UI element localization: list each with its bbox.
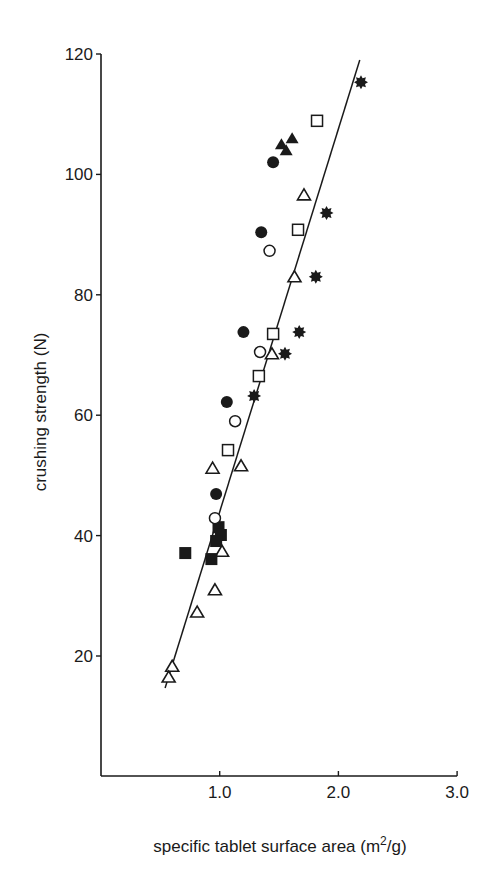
open-triangle-marker xyxy=(288,271,301,282)
open-circle-marker xyxy=(255,346,266,357)
filled-circle-marker xyxy=(255,226,267,238)
open-square-marker xyxy=(312,115,323,126)
asterisk-marker xyxy=(309,270,323,284)
filled-circle-marker xyxy=(267,156,279,168)
open-triangle-marker xyxy=(235,460,248,471)
open-triangle-marker xyxy=(265,348,278,359)
x-tick-label: 3.0 xyxy=(445,783,469,802)
asterisk-marker xyxy=(278,347,292,361)
open-square-marker xyxy=(268,328,279,339)
open-square-marker xyxy=(253,371,264,382)
y-tick-label: 80 xyxy=(74,286,93,305)
filled-circle-marker xyxy=(237,326,249,338)
y-tick-label: 120 xyxy=(65,45,93,64)
open-square-marker xyxy=(223,445,234,456)
x-tick-label: 2.0 xyxy=(327,783,351,802)
asterisk-marker xyxy=(354,75,368,89)
open-triangle-marker xyxy=(297,189,310,200)
asterisk-marker xyxy=(320,206,334,220)
filled-square-marker xyxy=(205,553,217,565)
open-square-marker xyxy=(293,224,304,235)
open-circle-marker xyxy=(230,416,241,427)
asterisk-marker xyxy=(292,325,306,339)
filled-triangle-marker xyxy=(286,132,299,143)
open-circle-marker xyxy=(209,513,220,524)
asterisk-marker xyxy=(247,389,261,403)
x-tick-label: 1.0 xyxy=(208,783,232,802)
open-triangle-marker xyxy=(206,462,219,473)
axes: 204060801001201.02.03.0 xyxy=(65,45,469,802)
y-tick-label: 100 xyxy=(65,165,93,184)
y-axis-title: crushing strength (N) xyxy=(31,333,50,492)
filled-square-marker xyxy=(210,535,222,547)
y-tick-label: 20 xyxy=(74,647,93,666)
y-tick-label: 60 xyxy=(74,406,93,425)
open-triangle-marker xyxy=(208,584,221,595)
filled-circle-marker xyxy=(221,396,233,408)
open-circle-marker xyxy=(264,245,275,256)
x-axis-title: specific tablet surface area (m2/g) xyxy=(153,834,406,856)
data-points xyxy=(162,75,368,682)
y-tick-label: 40 xyxy=(74,527,93,546)
open-triangle-marker xyxy=(162,671,175,682)
filled-square-marker xyxy=(179,547,191,559)
scatter-chart: 204060801001201.02.03.0 crushing strengt… xyxy=(0,0,502,878)
open-triangle-marker xyxy=(166,660,179,671)
filled-circle-marker xyxy=(210,488,222,500)
open-triangle-marker xyxy=(191,606,204,617)
